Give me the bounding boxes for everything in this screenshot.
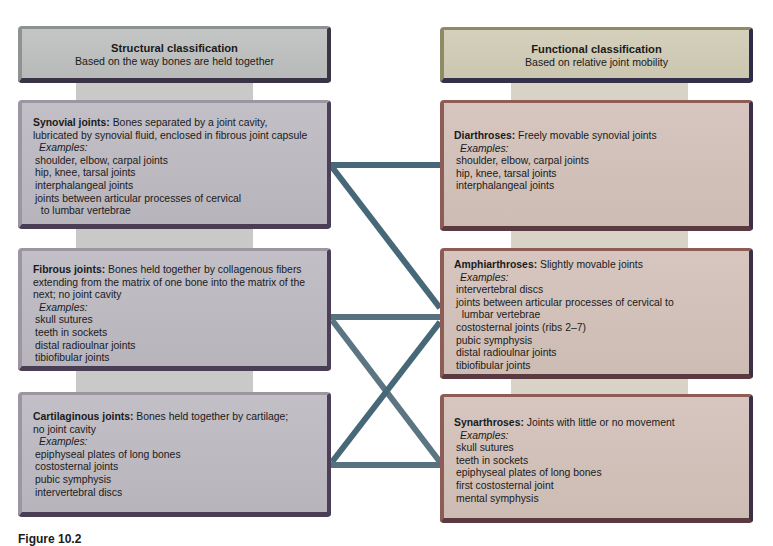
cartilaginous-examples-label: Examples:	[33, 436, 327, 449]
synarthroses-examples-label: Examples:	[454, 430, 749, 443]
diarthroses-box: Diarthroses: Freely movable synovial joi…	[440, 100, 753, 231]
list-item: distal radioulnar joints	[456, 347, 749, 360]
list-item: pubic symphysis	[456, 335, 749, 348]
cartilaginous-joints-box: Cartilaginous joints: Bones held togethe…	[18, 392, 331, 517]
amphiarthroses-description: Slightly movable joints	[537, 259, 643, 270]
structural-classification-header: Structural classification Based on the w…	[18, 26, 331, 83]
list-item: skull sutures	[456, 442, 749, 455]
fibrous-examples-label: Examples:	[33, 302, 327, 315]
synarthroses-term: Synarthroses:	[454, 417, 524, 428]
functional-title: Functional classification	[444, 43, 749, 56]
list-item: costosternal joints (ribs 2–7)	[456, 322, 749, 335]
list-item: intervertebral discs	[35, 487, 327, 500]
fibrous-description: Bones held together by collagenous fiber…	[105, 264, 301, 275]
cartilaginous-examples-list: epiphyseal plates of long bones costoste…	[33, 449, 327, 499]
list-item: mental symphysis	[456, 493, 749, 506]
functional-subtitle: Based on relative joint mobility	[444, 56, 749, 69]
list-item: to lumbar vertebrae	[35, 205, 327, 218]
diarthroses-examples-list: shoulder, elbow, carpal joints hip, knee…	[454, 155, 749, 193]
list-item: joints between articular processes of ce…	[456, 297, 749, 310]
synarthroses-description: Joints with little or no movement	[524, 417, 675, 428]
amphiarthroses-term: Amphiarthroses:	[454, 259, 537, 270]
list-item: tibiofibular joints	[456, 360, 749, 373]
structural-title: Structural classification	[22, 42, 327, 55]
synovial-description-2: lubricated by synovial fluid, enclosed i…	[33, 130, 327, 143]
cartilaginous-description: Bones held together by cartilage;	[133, 411, 288, 422]
figure-caption: Figure 10.2	[18, 532, 81, 546]
list-item: epiphyseal plates of long bones	[456, 467, 749, 480]
amphiarthroses-examples-label: Examples:	[454, 272, 749, 285]
synovial-examples-label: Examples:	[33, 142, 327, 155]
synovial-joints-box: Synovial joints: Bones separated by a jo…	[18, 100, 331, 229]
fibrous-description-2: extending from the matrix of one bone in…	[33, 277, 327, 290]
list-item: interphalangeal joints	[35, 180, 327, 193]
amphiarthroses-examples-list: intervertebral discs joints between arti…	[454, 284, 749, 372]
list-item: interphalangeal joints	[456, 180, 749, 193]
list-item: intervertebral discs	[456, 284, 749, 297]
synovial-examples-list: shoulder, elbow, carpal joints hip, knee…	[33, 155, 327, 218]
list-item: shoulder, elbow, carpal joints	[35, 155, 327, 168]
fibrous-term: Fibrous joints:	[33, 264, 105, 275]
list-item: shoulder, elbow, carpal joints	[456, 155, 749, 168]
diarthroses-description: Freely movable synovial joints	[515, 130, 657, 141]
cartilaginous-term: Cartilaginous joints:	[33, 411, 133, 422]
list-item: skull sutures	[35, 314, 327, 327]
list-item: epiphyseal plates of long bones	[35, 449, 327, 462]
connector-synovial-amphiarthroses	[332, 167, 440, 308]
list-item: teeth in sockets	[35, 327, 327, 340]
diarthroses-examples-label: Examples:	[454, 143, 749, 156]
amphiarthroses-box: Amphiarthroses: Slightly movable joints …	[440, 248, 753, 379]
list-item: joints between articular processes of ce…	[35, 193, 327, 206]
cartilaginous-description-2: no joint cavity	[33, 424, 327, 437]
list-item: pubic symphysis	[35, 474, 327, 487]
list-item: teeth in sockets	[456, 455, 749, 468]
fibrous-description-3: next; no joint cavity	[33, 289, 327, 302]
fibrous-examples-list: skull sutures teeth in sockets distal ra…	[33, 314, 327, 364]
synarthroses-examples-list: skull sutures teeth in sockets epiphysea…	[454, 442, 749, 505]
synarthroses-box: Synarthroses: Joints with little or no m…	[440, 394, 753, 523]
list-item: lumbar vertebrae	[456, 309, 749, 322]
synovial-term: Synovial joints:	[33, 117, 110, 128]
fibrous-joints-box: Fibrous joints: Bones held together by c…	[18, 248, 331, 371]
structural-subtitle: Based on the way bones are held together	[22, 55, 327, 68]
synovial-description: Bones separated by a joint cavity,	[110, 117, 268, 128]
list-item: distal radioulnar joints	[35, 340, 327, 353]
list-item: first costosternal joint	[456, 480, 749, 493]
list-item: tibiofibular joints	[35, 352, 327, 365]
list-item: hip, knee, tarsal joints	[456, 168, 749, 181]
diarthroses-term: Diarthroses:	[454, 130, 515, 141]
list-item: hip, knee, tarsal joints	[35, 167, 327, 180]
functional-classification-header: Functional classification Based on relat…	[440, 27, 753, 83]
list-item: costosternal joints	[35, 461, 327, 474]
